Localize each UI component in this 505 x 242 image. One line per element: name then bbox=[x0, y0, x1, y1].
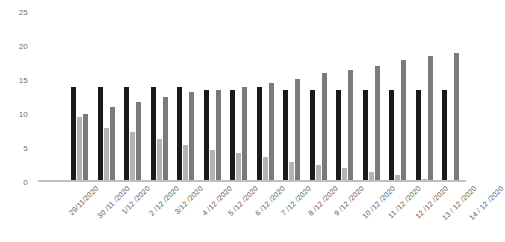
y-axis-tick-label: 5 bbox=[23, 144, 28, 153]
bar-series-2 bbox=[289, 162, 294, 182]
bar-series-2 bbox=[183, 145, 188, 182]
bar-series-1 bbox=[363, 90, 368, 182]
bar-group bbox=[173, 12, 200, 182]
bar-series-2 bbox=[236, 153, 241, 182]
bar-group bbox=[305, 12, 332, 182]
x-axis: 29/11/202030 /11 /20201/12 /20202 /12 /2… bbox=[38, 184, 466, 242]
bar-series-container bbox=[38, 12, 466, 182]
bar-group bbox=[385, 12, 412, 182]
x-axis-tick-label: 29/11/2020 bbox=[67, 184, 100, 217]
bar-series-1 bbox=[310, 90, 315, 182]
y-axis-tick-label: 20 bbox=[19, 42, 28, 51]
bar-series-3 bbox=[83, 114, 88, 182]
bar-group bbox=[438, 12, 465, 182]
bar-group bbox=[252, 12, 279, 182]
bar-series-1 bbox=[124, 87, 129, 182]
bar-series-2 bbox=[157, 139, 162, 182]
bar-series-3 bbox=[348, 70, 353, 182]
bar-series-3 bbox=[216, 90, 221, 182]
y-axis-tick-label: 10 bbox=[19, 110, 28, 119]
bar-group bbox=[226, 12, 253, 182]
bar-group bbox=[279, 12, 306, 182]
bar-series-2 bbox=[130, 132, 135, 182]
bar-series-3 bbox=[110, 107, 115, 182]
bar-series-2 bbox=[210, 150, 215, 182]
bar-series-2 bbox=[77, 117, 82, 182]
bar-series-3 bbox=[242, 87, 247, 182]
bar-series-3 bbox=[375, 66, 380, 182]
bar-series-1 bbox=[336, 90, 341, 182]
y-axis: 0510152025 bbox=[0, 0, 36, 194]
bar-series-1 bbox=[98, 87, 103, 182]
bar-series-1 bbox=[71, 87, 76, 182]
bar-series-1 bbox=[204, 90, 209, 182]
y-axis-tick-label: 15 bbox=[19, 76, 28, 85]
plot-area bbox=[38, 12, 466, 182]
x-axis-line bbox=[38, 180, 466, 182]
bar-series-3 bbox=[269, 83, 274, 182]
bar-group bbox=[358, 12, 385, 182]
bar-group bbox=[146, 12, 173, 182]
bar-series-3 bbox=[428, 56, 433, 182]
bar-group bbox=[199, 12, 226, 182]
y-axis-tick-label: 0 bbox=[23, 178, 28, 187]
y-axis-tick-label: 25 bbox=[19, 8, 28, 17]
bar-series-3 bbox=[322, 73, 327, 182]
bar-series-1 bbox=[177, 87, 182, 182]
bar-series-3 bbox=[295, 79, 300, 182]
bar-series-3 bbox=[401, 60, 406, 182]
bar-series-1 bbox=[151, 87, 156, 182]
bar-group bbox=[120, 12, 147, 182]
bar-series-1 bbox=[442, 90, 447, 182]
bar-series-1 bbox=[257, 87, 262, 182]
bar-series-1 bbox=[416, 90, 421, 182]
bar-group bbox=[40, 12, 67, 182]
bar-series-1 bbox=[389, 90, 394, 182]
bar-series-1 bbox=[283, 90, 288, 182]
bar-group bbox=[67, 12, 94, 182]
bar-series-3 bbox=[454, 53, 459, 182]
bar-series-2 bbox=[104, 128, 109, 182]
bar-group bbox=[93, 12, 120, 182]
bar-series-3 bbox=[163, 97, 168, 182]
bar-series-3 bbox=[189, 92, 194, 182]
bar-group bbox=[411, 12, 438, 182]
bar-group bbox=[332, 12, 359, 182]
bar-series-1 bbox=[230, 90, 235, 182]
bar-series-2 bbox=[263, 157, 268, 182]
bar-series-3 bbox=[136, 102, 141, 182]
